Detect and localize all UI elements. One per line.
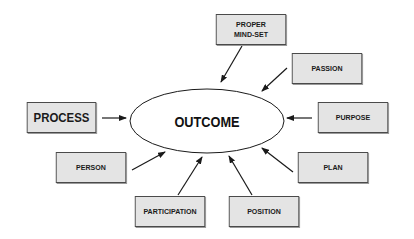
outcome-label: OUTCOME: [142, 108, 273, 134]
node-passion-label: PASSION: [311, 64, 342, 74]
node-position: POSITION: [229, 196, 299, 227]
node-purpose: PURPOSE: [318, 102, 388, 133]
node-proper-mind-set: PROPER MIND-SET: [216, 14, 286, 45]
node-person: PERSON: [56, 152, 126, 183]
arrow-passion: [262, 68, 287, 91]
node-proper-mind-set-line2: MIND-SET: [234, 30, 268, 40]
arrow-plan: [262, 148, 293, 172]
arrow-participation: [178, 157, 202, 195]
node-process-label: PROCESS: [34, 113, 90, 123]
node-plan: PLAN: [298, 152, 368, 183]
node-person-label: PERSON: [76, 163, 106, 173]
node-position-label: POSITION: [247, 207, 281, 217]
arrow-position: [229, 156, 252, 195]
node-proper-mind-set-line1: PROPER: [234, 20, 268, 30]
node-purpose-label: PURPOSE: [336, 113, 370, 123]
node-participation: PARTICIPATION: [135, 196, 205, 227]
node-passion: PASSION: [292, 53, 362, 84]
node-plan-label: PLAN: [323, 163, 342, 173]
arrow-proper-mind-set: [221, 46, 242, 82]
arrow-person: [132, 152, 165, 170]
node-process: PROCESS: [27, 102, 97, 133]
node-participation-label: PARTICIPATION: [143, 207, 196, 217]
